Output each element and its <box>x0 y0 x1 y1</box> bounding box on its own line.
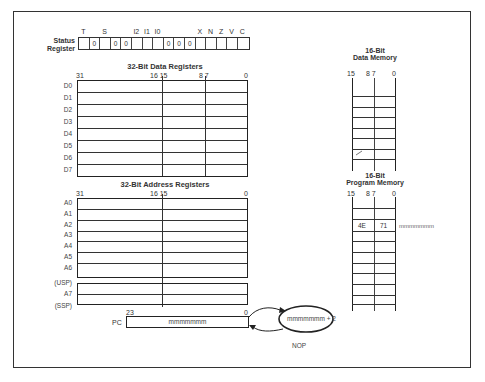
sr-bit-cell: 0 <box>164 38 175 49</box>
memory-row-line <box>352 241 396 242</box>
status-label-line2: Register <box>47 45 75 53</box>
program-memory-title: 16-Bit Program Memory <box>330 172 420 186</box>
sr-bit-cell <box>100 38 111 49</box>
memory-row-line <box>352 273 396 274</box>
memory-rail <box>395 78 396 171</box>
sr-bit-cell <box>196 38 207 49</box>
sr-bit-cell: 0 <box>185 38 196 49</box>
bit-label-0: 0 <box>244 72 248 80</box>
register-label-a3: A3 <box>42 231 72 238</box>
sr-bit-header: X <box>195 28 206 35</box>
bit-label-0: 0 <box>244 190 248 198</box>
register-label-d2: D2 <box>42 106 72 113</box>
memory-row-line <box>352 284 396 285</box>
memory-row-line <box>352 252 396 253</box>
sr-bit-cell: 0 <box>174 38 185 49</box>
program-memory-title-line2: Program Memory <box>330 179 420 186</box>
instruction-mnemonic: NOP <box>292 342 306 350</box>
memory-row-line <box>352 208 396 209</box>
next-pc-value: mmmmmmm + 2 <box>287 315 336 323</box>
sr-bit-header: Z <box>216 28 227 35</box>
opcode-low-byte: 71 <box>380 222 387 230</box>
sr-bit-header: I0 <box>152 28 163 35</box>
sr-bit-cell: 0 <box>111 38 122 49</box>
usp-label: (USP) <box>42 279 72 286</box>
sr-bit-header: T <box>78 28 89 35</box>
memory-row-line <box>352 231 396 232</box>
dm-bit-0: 0 <box>392 70 396 78</box>
data-registers-title: 32-Bit Data Registers <box>100 62 230 71</box>
bit-label-16-15: 16 15 <box>150 190 168 198</box>
memory-row-line <box>352 96 396 97</box>
arrow-head-icon <box>249 325 256 330</box>
bit-label-31: 31 <box>76 72 84 80</box>
memory-row-line <box>352 263 396 264</box>
pc-label: PC <box>112 319 122 327</box>
sr-bit-header: V <box>226 28 237 35</box>
memory-row-line <box>352 159 396 160</box>
opcode-address: mmmmmmm <box>399 222 434 230</box>
memory-byte-divider <box>374 78 375 171</box>
pm-bit-15: 15 <box>347 190 355 198</box>
pc-value: mmmmmmm <box>169 318 207 325</box>
memory-row-line <box>352 304 396 305</box>
arrow-to-ellipse <box>249 308 280 317</box>
register-label-a1: A1 <box>42 210 72 217</box>
status-label-line1: Status <box>47 37 75 45</box>
sr-bit-cell <box>217 38 228 49</box>
sr-bit-cell <box>227 38 238 49</box>
sr-bit-cell <box>153 38 164 49</box>
status-register: 0 0 0 0 0 0 <box>78 37 250 50</box>
register-label-d3: D3 <box>42 118 72 125</box>
program-counter-box: mmmmmmm <box>126 316 249 328</box>
status-register-label: Status Register <box>47 37 75 53</box>
memory-rail <box>395 197 396 311</box>
data-memory-title-line2: Data Memory <box>335 54 415 61</box>
sr-bit-cell: 0 <box>90 38 101 49</box>
dm-bit-15: 15 <box>347 70 355 78</box>
arrow-to-pc <box>253 327 283 331</box>
sr-bit-header: N <box>205 28 216 35</box>
ssp-label: (SSP) <box>42 302 72 309</box>
word-divider <box>162 284 163 304</box>
sr-bit-cell <box>79 38 90 49</box>
memory-rail <box>352 197 353 311</box>
word-divider <box>162 76 163 176</box>
sr-bit-cell <box>132 38 143 49</box>
sr-bit-cell <box>206 38 217 49</box>
register-label-d7: D7 <box>42 166 72 173</box>
register-label-a4: A4 <box>42 242 72 249</box>
register-label-a2: A2 <box>42 221 72 228</box>
sr-bit-cell <box>143 38 154 49</box>
memory-row-line <box>352 138 396 139</box>
register-label-d1: D1 <box>42 94 72 101</box>
sr-bit-header: S <box>99 28 110 35</box>
bit-label-8-7: 8 7 <box>199 72 209 80</box>
memory-row-line <box>352 219 396 220</box>
data-memory-title: 16-Bit Data Memory <box>335 47 415 61</box>
memory-row-line <box>352 107 396 108</box>
memory-row-line <box>352 117 396 118</box>
register-label-a7: A7 <box>42 290 72 297</box>
register-label-d6: D6 <box>42 154 72 161</box>
bit-label-16-15: 16 15 <box>150 72 168 80</box>
data-memory-title-line1: 16-Bit <box>335 47 415 54</box>
pencil-mark-icon <box>355 150 363 156</box>
sr-bit-cell <box>238 38 249 49</box>
memory-row-line <box>352 295 396 296</box>
program-memory-title-line1: 16-Bit <box>330 172 420 179</box>
register-label-a5: A5 <box>42 253 72 260</box>
memory-row-line <box>352 128 396 129</box>
bit-label-31: 31 <box>76 190 84 198</box>
dm-bit-8-7: 8 7 <box>366 70 376 78</box>
register-label-d5: D5 <box>42 142 72 149</box>
opcode-high-byte: 4E <box>358 222 366 230</box>
sr-bit-header: I2 <box>131 28 142 35</box>
register-label-d4: D4 <box>42 130 72 137</box>
register-label-a6: A6 <box>42 264 72 271</box>
stack-pointer-box <box>77 283 248 305</box>
memory-rail <box>352 78 353 171</box>
sr-bit-header: C <box>237 28 248 35</box>
sr-bit-header: I1 <box>142 28 153 35</box>
address-registers-box <box>77 198 248 278</box>
